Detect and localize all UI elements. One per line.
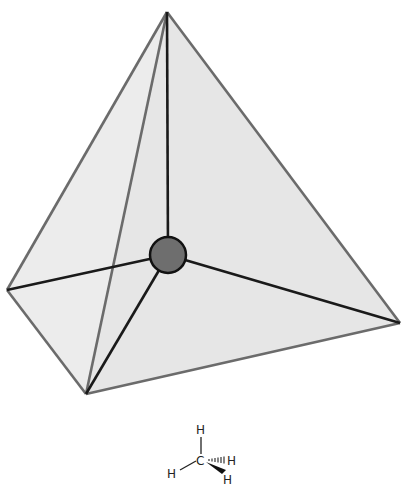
atom-label-h-hashed: H bbox=[227, 454, 236, 468]
atom-label-h-top: H bbox=[196, 423, 205, 437]
atom-label-h-wedge: H bbox=[223, 473, 232, 487]
carbon-atom bbox=[150, 237, 186, 273]
methane-tetrahedron-diagram: C H H H H bbox=[0, 0, 420, 487]
atom-label-c: C bbox=[196, 454, 204, 468]
methane-wedge-dash-formula: C H H H H bbox=[167, 423, 236, 487]
atom-label-h-left: H bbox=[167, 467, 176, 481]
